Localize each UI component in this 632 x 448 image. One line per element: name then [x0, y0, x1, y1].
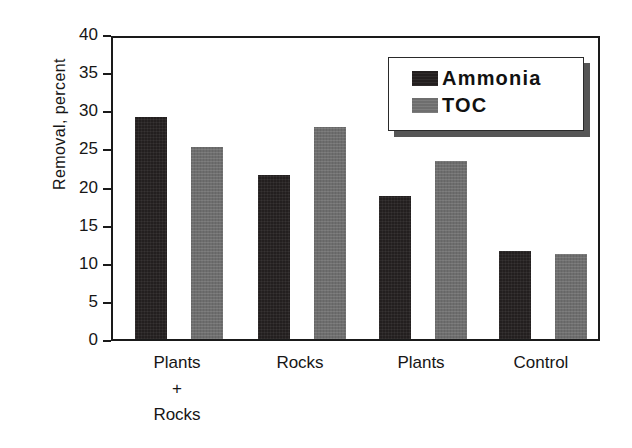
x-axis-label-line: Plants — [351, 350, 491, 376]
y-axis-tick-mark — [103, 340, 111, 342]
y-axis-tick-label: 20 — [79, 178, 98, 198]
chart-legend[interactable]: Ammonia TOC — [388, 57, 584, 131]
legend-swatch-ammonia — [412, 71, 438, 86]
y-axis-tick-label: 35 — [79, 63, 98, 83]
y-axis-tick-mark — [103, 149, 111, 151]
bar-chart-figure: Removal, percent 0510152025303540 Plants… — [0, 0, 632, 448]
y-axis-tick-label: 40 — [79, 25, 98, 45]
x-axis-label-line: Plants — [107, 350, 247, 376]
x-axis-label-rocks: Rocks — [230, 350, 370, 376]
bar-ammonia-plants-rocks — [135, 117, 167, 339]
y-axis-tick-label: 30 — [79, 101, 98, 121]
y-axis-tick-label: 15 — [79, 216, 98, 236]
legend-label-toc: TOC — [442, 94, 487, 117]
x-axis-label-line: + — [107, 376, 247, 402]
x-axis-label-control: Control — [471, 350, 611, 376]
legend-entry-ammonia: Ammonia — [412, 67, 542, 90]
bar-ammonia-rocks — [258, 175, 290, 339]
y-axis-tick-mark — [103, 73, 111, 75]
y-axis-tick-label: 0 — [89, 330, 98, 350]
y-axis-title: Removal, percent — [51, 4, 69, 244]
y-axis-tick-mark — [103, 302, 111, 304]
bar-toc-control — [555, 254, 587, 339]
x-axis-label-line: Control — [471, 350, 611, 376]
x-axis-label-plants: Plants — [351, 350, 491, 376]
y-axis-tick-mark — [103, 111, 111, 113]
y-axis-tick-label: 5 — [89, 292, 98, 312]
y-axis-tick-label: 25 — [79, 139, 98, 159]
y-axis-tick-mark — [103, 226, 111, 228]
legend-swatch-toc — [412, 98, 438, 113]
x-axis-label-line: Rocks — [107, 402, 247, 428]
bar-toc-rocks — [314, 127, 346, 339]
x-axis-label-line: Rocks — [230, 350, 370, 376]
y-axis-tick-mark — [103, 264, 111, 266]
legend-entry-toc: TOC — [412, 94, 487, 117]
x-axis-label-plants-rocks: Plants+Rocks — [107, 350, 247, 428]
y-axis-tick-mark — [103, 188, 111, 190]
bar-ammonia-control — [499, 251, 531, 339]
bar-toc-plants-rocks — [191, 147, 223, 339]
y-axis-tick-mark — [103, 35, 111, 37]
y-axis-tick-label: 10 — [79, 254, 98, 274]
bar-ammonia-plants — [379, 196, 411, 339]
legend-label-ammonia: Ammonia — [442, 67, 542, 90]
bar-toc-plants — [435, 161, 467, 339]
